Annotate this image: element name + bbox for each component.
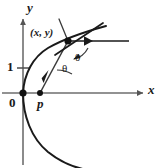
origin-label: 0 bbox=[9, 96, 16, 109]
angle-label-theta-lower: θ bbox=[62, 63, 67, 74]
point-xy-label: (x, y) bbox=[30, 27, 53, 38]
x-axis-label: x bbox=[148, 83, 155, 96]
y-axis-label: y bbox=[27, 1, 33, 14]
string-segment-arrowhead bbox=[42, 70, 49, 83]
horizontal-ray-arrowhead bbox=[84, 36, 93, 46]
point-p-label: p bbox=[37, 97, 44, 110]
y-tick-label-1: 1 bbox=[7, 60, 14, 73]
origin-point-dot bbox=[19, 89, 26, 96]
angle-label-theta-upper: θ bbox=[75, 52, 80, 63]
tractrix-diagram: y x 1 0 p (x, y) θ θ bbox=[0, 0, 163, 168]
tractrix-lower-branch bbox=[23, 93, 88, 168]
diagram-canvas bbox=[0, 0, 163, 168]
xy-point-dot bbox=[64, 37, 71, 44]
